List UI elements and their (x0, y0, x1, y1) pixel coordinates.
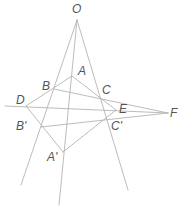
line-a-prime-c-prime-extended-to-e (63, 110, 116, 152)
label-b: B (42, 79, 50, 93)
label-a-prime: A' (46, 150, 58, 164)
label-a: A (77, 64, 86, 78)
label-d: D (16, 93, 25, 107)
label-f: F (170, 106, 178, 120)
line-b-c-extended-to-f (54, 89, 168, 113)
label-c: C (102, 83, 111, 97)
label-e: E (119, 102, 128, 116)
label-o: O (72, 2, 81, 16)
line-a-prime-b-prime-extended-to-d (26, 106, 63, 152)
label-c-prime: C' (111, 119, 123, 133)
desargues-diagram: O A B C D E F B' C' A' (0, 0, 185, 214)
label-b-prime: B' (16, 119, 27, 133)
line-b-prime-c-prime-extended-to-f (41, 113, 168, 127)
line-d-e-f (5, 106, 168, 113)
